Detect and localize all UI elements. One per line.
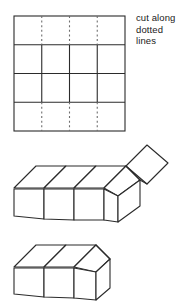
- instruction-line-3: lines: [136, 35, 186, 47]
- wall-face-3: [74, 189, 104, 220]
- diagram-root: cut along dotted lines: [0, 0, 186, 308]
- house-wall-face-1: [14, 268, 44, 297]
- house-wall-face-2: [44, 268, 74, 298]
- panel-partially-folded: [14, 145, 168, 222]
- instruction-text: cut along dotted lines: [136, 12, 186, 47]
- instruction-line-2: dotted: [136, 24, 186, 36]
- wall-face-2: [44, 189, 74, 220]
- instruction-line-1: cut along: [136, 12, 186, 24]
- wall-face-1: [14, 189, 44, 219]
- panel-completed-house: [14, 245, 110, 300]
- panel-flat-grid: [14, 16, 125, 131]
- house-wall-face-3: [74, 268, 96, 300]
